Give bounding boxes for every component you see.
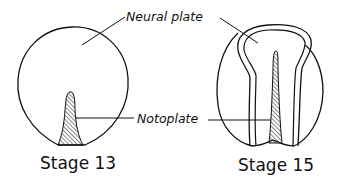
label-notoplate: Notoplate: [137, 111, 198, 126]
caption-stage-13: Stage 13: [40, 153, 116, 173]
stage-13-embryo: [18, 27, 128, 145]
caption-stage-15: Stage 15: [238, 155, 314, 175]
notoplate-15: [269, 51, 282, 143]
leader-lines: [75, 17, 271, 120]
stage-15-embryo: [217, 25, 323, 146]
leader-neural-plate-13: [82, 17, 125, 45]
label-neural-plate: Neural plate: [126, 9, 203, 24]
